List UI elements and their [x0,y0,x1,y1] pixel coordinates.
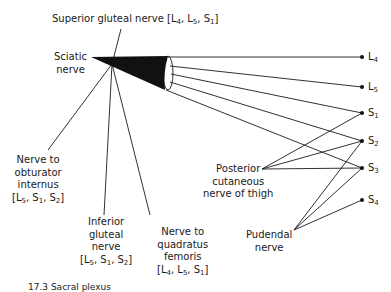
qf-roots: [L4, L5, S1] [157,264,208,277]
s4-num: 4 [374,199,378,207]
root-dot-l4 [360,55,364,59]
ig-r1n: 5 [89,259,93,267]
posterior-cutaneous-nerve-label: Posterior cutaneous nerve of thigh [203,163,273,201]
root-dot-l5 [360,85,364,89]
root-dot-s2 [360,139,364,143]
root-label-s4: S4 [368,194,379,206]
pc-line1: Posterior [203,163,273,176]
pudendal-s3-line [294,168,362,230]
sciatic-s2-line [170,82,362,141]
nerve-to-obturator-internus-label: Nerve to obturator internus [L5, S1, S2] [12,154,64,204]
qf-line2: quadratus [157,239,208,252]
oi-line3: internus [12,179,64,192]
obturator-internus-line [48,64,112,150]
root-label-s2: S2 [368,135,379,147]
sg-root-2-num: 5 [193,18,197,26]
sciatic-line2: nerve [54,64,87,77]
oi-line1: Nerve to [12,154,64,167]
inferior-gluteal-nerve-label: Inferior gluteal nerve [L5, S1, S2] [80,216,132,266]
posterior-cutaneous-s2-line [262,141,362,169]
root-label-s1: S1 [368,107,379,119]
root-label-s3: S3 [368,162,379,174]
nerve-to-quadratus-femoris-label: Nerve to quadratus femoris [L4, L5, S1] [157,226,208,276]
s2-num: 2 [374,140,378,148]
oi-roots: [L5, S1, S2] [12,192,64,205]
pu-line2: nerve [246,242,292,255]
quadratus-femoris-line [112,64,150,215]
root-label-l5: L5 [368,81,378,93]
posterior-cutaneous-s3-line [262,168,362,169]
oi-line2: obturator [12,167,64,180]
l4-num: 4 [374,56,378,64]
sciatic-nerve-label: Sciatic nerve [54,51,87,76]
ig-line2: gluteal [80,229,132,242]
inferior-gluteal-line [104,64,112,215]
ig-roots: [L5, S1, S2] [80,254,132,267]
oi-r3n: 2 [56,197,60,205]
superior-gluteal-name: Superior gluteal nerve [52,13,164,24]
root-dot-s4 [360,198,364,202]
ig-line1: Inferior [80,216,132,229]
superior-gluteal-line [113,29,121,60]
qf-line1: Nerve to [157,226,208,239]
sg-root-1-num: 4 [176,18,180,26]
root-dot-s1 [360,111,364,115]
ig-r2n: 1 [107,259,111,267]
ig-line3: nerve [80,241,132,254]
root-label-l4: L4 [368,51,378,63]
pc-line2: cutaneous [203,176,273,189]
s3-num: 3 [374,167,378,175]
sciatic-line1: Sciatic [54,51,87,64]
oi-r1n: 5 [21,197,25,205]
oi-r2n: 1 [39,197,43,205]
pudendal-s4-line [294,200,362,230]
root-dot-s3 [360,166,364,170]
qf-r3n: 1 [200,269,204,277]
qf-r1n: 4 [166,269,170,277]
sciatic-l5-line [170,66,362,87]
s1-num: 1 [374,112,378,120]
sciatic-s1-line [171,74,362,113]
ig-r3n: 2 [124,259,128,267]
superior-gluteal-nerve-label: Superior gluteal nerve [L4, L5, S1] [52,13,218,26]
qf-line3: femoris [157,251,208,264]
pu-line1: Pudendal [246,229,292,242]
l5-num: 5 [374,86,378,94]
qf-r2n: 5 [183,269,187,277]
pudendal-nerve-label: Pudendal nerve [246,229,292,254]
pc-line3: nerve of thigh [203,188,273,201]
sciatic-cone [91,56,168,90]
sg-root-3-num: 1 [210,18,214,26]
figure-caption: 17.3 Sacral plexus [28,282,111,292]
